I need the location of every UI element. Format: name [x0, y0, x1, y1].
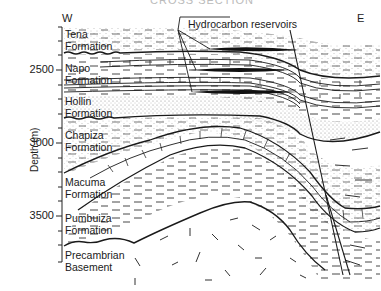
hydrocarbon-reservoirs-label: Hydrocarbon reservoirs — [188, 18, 297, 30]
formation-label-tena: Tena Formation — [65, 28, 112, 52]
formation-name: Precambrian — [65, 249, 125, 261]
formation-label-pumbuiza: Pumbuiza Formation — [65, 212, 112, 236]
formation-type: Formation — [65, 224, 112, 236]
formation-name: Macuma — [65, 176, 112, 188]
formation-type: Basement — [65, 261, 125, 273]
precambrian-basement-texture — [135, 218, 306, 285]
formation-type: Formation — [65, 188, 112, 200]
direction-west: W — [62, 12, 72, 24]
formation-name: Chapiza — [65, 129, 112, 141]
formation-name: Pumbuiza — [65, 212, 112, 224]
formation-type: Formation — [65, 107, 112, 119]
formation-label-precambrian: Precambrian Basement — [65, 249, 125, 273]
formation-label-chapiza: Chapiza Formation — [65, 129, 112, 153]
formation-type: Formation — [65, 141, 112, 153]
geologic-cross-section — [0, 0, 381, 291]
formation-label-hollin: Hollin Formation — [65, 95, 112, 119]
formation-type: Formation — [65, 40, 112, 52]
formation-label-macuma: Macuma Formation — [65, 176, 112, 200]
direction-east: E — [357, 12, 364, 24]
formation-label-napo: Napo Formation — [65, 62, 112, 86]
y-tick-3500: 3500 — [14, 209, 54, 221]
y-axis-label: Depth (m) — [29, 128, 40, 172]
y-tick-3000: 3000 — [14, 136, 54, 148]
y-tick-2500: 2500 — [14, 63, 54, 75]
depth-axis — [56, 27, 62, 262]
formation-type: Formation — [65, 74, 112, 86]
formation-name: Tena — [65, 28, 112, 40]
formation-name: Napo — [65, 62, 112, 74]
formation-name: Hollin — [65, 95, 112, 107]
